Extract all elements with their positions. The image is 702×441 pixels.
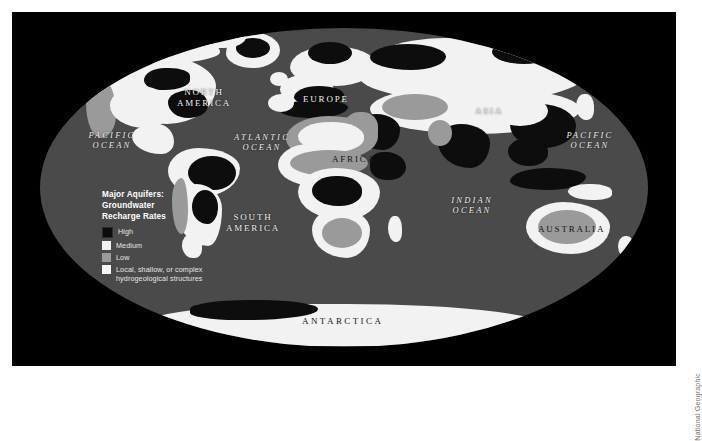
- label-south-america-line2: AMERICA: [218, 223, 288, 234]
- landmass-arctic-islands: [190, 30, 246, 48]
- legend-title: Major Aquifers: Groundwater Recharge Rat…: [102, 190, 224, 223]
- legend-item-medium: Medium: [102, 241, 224, 251]
- landmass-new-zealand: [618, 236, 634, 258]
- label-atlantic-ocean: ATLANTIC OCEAN: [222, 132, 302, 153]
- legend-label-local: Local, shallow, or complex hydrogeologic…: [116, 265, 203, 284]
- label-pacific-east-line2: OCEAN: [554, 140, 626, 150]
- label-pacific-ocean-west: PACIFIC OCEAN: [76, 130, 148, 151]
- landmass-iberia: [268, 94, 294, 112]
- credit-text: National Geographic: [694, 373, 701, 441]
- legend-swatch-low: [102, 253, 111, 262]
- label-europe: EUROPE: [303, 94, 349, 105]
- map-panel: NORTH AMERICA SOUTH AMERICA EUROPE ASIA …: [12, 12, 676, 366]
- legend-title-line3: Recharge Rates: [102, 212, 224, 223]
- landmass-new-guinea: [568, 184, 612, 200]
- label-australia: AUSTRALIA: [538, 224, 605, 235]
- label-south-america: SOUTH AMERICA: [218, 212, 288, 234]
- label-pacific-east-line1: PACIFIC: [554, 130, 626, 140]
- legend-label-local-line1: Local, shallow, or complex: [116, 265, 203, 274]
- landmass-british-isles: [270, 72, 288, 86]
- legend-item-low: Low: [102, 253, 224, 263]
- legend-item-high: High: [102, 227, 224, 239]
- map-legend: Major Aquifers: Groundwater Recharge Rat…: [102, 190, 224, 286]
- label-north-america-line1: NORTH: [168, 87, 240, 98]
- landmass-asia-northeast-high: [492, 40, 556, 64]
- legend-swatch-medium: [102, 241, 111, 250]
- label-indian-line1: INDIAN: [436, 195, 508, 205]
- label-africa: AFRICA: [332, 154, 376, 165]
- landmass-scandinavia-high: [308, 42, 352, 64]
- landmass-africa-congo-high: [312, 176, 362, 206]
- label-antarctica: ANTARCTICA: [302, 316, 383, 327]
- label-indian-line2: OCEAN: [436, 205, 508, 215]
- landmass-asia-southeast-high: [508, 138, 548, 166]
- label-north-america: NORTH AMERICA: [168, 87, 240, 109]
- credit-line: National Geographic: [694, 373, 701, 441]
- landmass-madagascar: [388, 216, 402, 242]
- label-pacific-west-line2: OCEAN: [76, 140, 148, 150]
- world-map-projection: NORTH AMERICA SOUTH AMERICA EUROPE ASIA …: [40, 28, 648, 347]
- legend-label-low: Low: [116, 253, 130, 263]
- landmass-north-america-great-plains: [110, 86, 172, 128]
- landmass-asia-indus-low: [428, 120, 452, 146]
- label-north-america-line2: AMERICA: [168, 98, 240, 109]
- label-indian-ocean: INDIAN OCEAN: [436, 195, 508, 216]
- legend-swatch-local: [102, 265, 111, 274]
- landmass-japan: [576, 94, 594, 120]
- legend-title-line2: Groundwater: [102, 201, 224, 212]
- label-south-america-line1: SOUTH: [218, 212, 288, 223]
- legend-item-local: Local, shallow, or complex hydrogeologic…: [102, 265, 224, 284]
- label-atlantic-line1: ATLANTIC: [222, 132, 302, 142]
- label-atlantic-line2: OCEAN: [222, 142, 302, 152]
- legend-label-high: High: [118, 227, 133, 237]
- legend-title-line1: Major Aquifers:: [102, 190, 224, 201]
- label-pacific-west-line1: PACIFIC: [76, 130, 148, 140]
- legend-label-local-line2: hydrogeological structures: [116, 274, 203, 283]
- label-pacific-ocean-east: PACIFIC OCEAN: [554, 130, 626, 151]
- legend-label-medium: Medium: [116, 241, 142, 251]
- landmass-asia-central-low: [382, 94, 448, 120]
- landmass-africa-kalahari-low: [322, 218, 362, 248]
- landmass-asia-north-high: [370, 44, 446, 70]
- legend-swatch-high: [102, 227, 113, 238]
- label-asia: ASIA: [475, 106, 503, 117]
